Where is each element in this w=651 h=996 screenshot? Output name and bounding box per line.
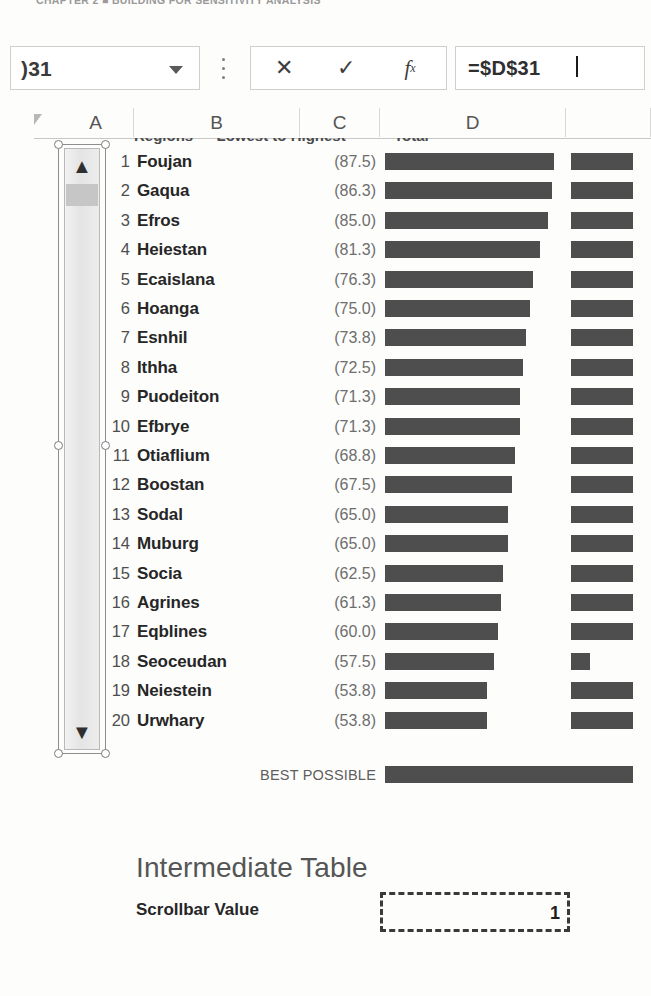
row-name: Eqblines	[137, 617, 207, 646]
name-box[interactable]: )31	[10, 46, 200, 90]
vertical-scrollbar-control[interactable]: ▲ ▼	[58, 144, 106, 754]
column-header-d[interactable]: D	[380, 108, 566, 137]
bar-total	[385, 212, 548, 229]
bar-secondary	[571, 359, 633, 376]
table-row[interactable]: 17Eqblines(60.0)	[34, 617, 651, 646]
bar-total	[385, 271, 533, 288]
row-value: (87.5)	[290, 147, 376, 176]
resize-handle-bottom-left[interactable]	[54, 749, 63, 758]
formula-text-caret	[575, 56, 578, 77]
chevron-down-icon[interactable]: ▼	[66, 718, 98, 746]
table-row[interactable]: 10Efbrye(71.3)	[34, 412, 651, 441]
table-row[interactable]: 2Gaqua(86.3)	[34, 176, 651, 205]
table-row[interactable]: 3Efros(85.0)	[34, 206, 651, 235]
bar-secondary	[571, 388, 633, 405]
select-all-corner-icon[interactable]	[34, 114, 42, 125]
resize-handle-top-left[interactable]	[54, 140, 63, 149]
row-name: Efros	[137, 206, 180, 235]
table-row[interactable]: 13Sodal(65.0)	[34, 500, 651, 529]
row-value: (65.0)	[290, 529, 376, 558]
bar-secondary	[571, 418, 633, 435]
row-name: Urwhary	[137, 706, 204, 735]
scrollbar-track[interactable]	[64, 148, 100, 750]
table-row[interactable]: 18Seoceudan(57.5)	[34, 647, 651, 676]
table-row[interactable]: 5Ecaislana(76.3)	[34, 265, 651, 294]
bar-secondary	[571, 535, 633, 552]
bar-total	[385, 418, 520, 435]
table-row[interactable]: 1Foujan(87.5)	[34, 147, 651, 176]
kebab-menu-icon[interactable]	[222, 58, 226, 80]
column-header-e[interactable]	[566, 108, 651, 137]
table-row[interactable]: 11Otiaflium(68.8)	[34, 441, 651, 470]
table-row[interactable]: 19Neiestein(53.8)	[34, 676, 651, 705]
resize-handle-middle-right[interactable]	[101, 441, 110, 450]
row-value: (85.0)	[290, 206, 376, 235]
bar-total	[385, 388, 520, 405]
scrollbar-value-cell[interactable]: 1	[380, 892, 570, 932]
row-name: Esnhil	[137, 323, 187, 352]
bar-total	[385, 653, 494, 670]
table-row[interactable]: 8Ithha(72.5)	[34, 353, 651, 382]
bar-secondary-best	[571, 766, 633, 783]
table-row[interactable]: 6Hoanga(75.0)	[34, 294, 651, 323]
formula-bar: )31 ✕ ✓ fx =$D$31	[0, 46, 651, 94]
bar-total	[385, 300, 530, 317]
bar-secondary	[571, 329, 633, 346]
table-row[interactable]: 9Puodeiton(71.3)	[34, 382, 651, 411]
bar-total	[385, 712, 487, 729]
bar-secondary	[571, 153, 633, 170]
bar-total	[385, 476, 512, 493]
column-header-c[interactable]: C	[300, 108, 380, 137]
insert-function-icon[interactable]: fx	[379, 47, 441, 89]
row-value: (76.3)	[290, 265, 376, 294]
row-value: (67.5)	[290, 470, 376, 499]
row-value: (81.3)	[290, 235, 376, 264]
row-value: (75.0)	[290, 294, 376, 323]
table-row[interactable]: 15Socia(62.5)	[34, 559, 651, 588]
row-name: Socia	[137, 559, 182, 588]
name-box-value: )31	[21, 57, 52, 81]
formula-action-group: ✕ ✓ fx	[250, 46, 447, 90]
chevron-up-icon[interactable]: ▲	[66, 152, 98, 180]
row-name: Neiestein	[137, 676, 212, 705]
table-row[interactable]: 16Agrines(61.3)	[34, 588, 651, 617]
scrollbar-thumb[interactable]	[66, 184, 98, 206]
row-name: Foujan	[137, 147, 192, 176]
table-row[interactable]: 4Heiestan(81.3)	[34, 235, 651, 264]
chevron-down-icon[interactable]	[169, 66, 183, 74]
confirm-icon[interactable]: ✓	[315, 47, 377, 89]
row-name: Ecaislana	[137, 265, 215, 294]
table-row[interactable]: 20Urwhary(53.8)	[34, 706, 651, 735]
formula-value: =$D$31	[468, 57, 540, 80]
column-header-b[interactable]: B	[134, 108, 300, 137]
row-value: (71.3)	[290, 382, 376, 411]
resize-handle-top-right[interactable]	[101, 140, 110, 149]
column-header-a[interactable]: A	[58, 108, 134, 137]
row-value: (61.3)	[290, 588, 376, 617]
row-name: Heiestan	[137, 235, 207, 264]
row-name: Puodeiton	[137, 382, 219, 411]
resize-handle-middle-left[interactable]	[54, 441, 63, 450]
bar-total	[385, 329, 526, 346]
table-row[interactable]: 7Esnhil(73.8)	[34, 323, 651, 352]
formula-input[interactable]: =$D$31	[455, 46, 645, 90]
resize-handle-bottom-right[interactable]	[101, 749, 110, 758]
bar-total	[385, 594, 501, 611]
bar-secondary	[571, 712, 633, 729]
row-name: Efbrye	[137, 412, 189, 441]
cancel-icon[interactable]: ✕	[253, 47, 315, 89]
row-value: (72.5)	[290, 353, 376, 382]
bar-total	[385, 153, 554, 170]
row-value: (68.8)	[290, 441, 376, 470]
best-possible-row: BEST POSSIBLE	[34, 760, 651, 790]
row-value: (53.8)	[290, 676, 376, 705]
table-row[interactable]: 14Muburg(65.0)	[34, 529, 651, 558]
row-name: Seoceudan	[137, 647, 227, 676]
bar-secondary	[571, 476, 633, 493]
row-value: (73.8)	[290, 323, 376, 352]
clipped-header-b: Regions — Lowest to Highest	[134, 138, 346, 144]
bar-total	[385, 506, 508, 523]
bar-total	[385, 565, 503, 582]
row-name: Gaqua	[137, 176, 189, 205]
table-row[interactable]: 12Boostan(67.5)	[34, 470, 651, 499]
